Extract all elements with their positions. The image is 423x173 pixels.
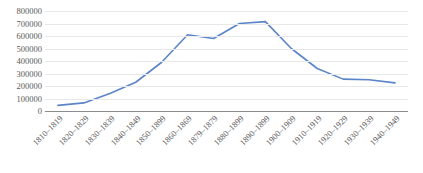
y-axis-tick-label: 300000 [17, 69, 43, 78]
y-axis-tick-label: 400000 [17, 57, 43, 66]
plot-area [45, 11, 408, 111]
line-chart: 8000007000006000005000004000003000002000… [0, 0, 423, 173]
gridline [45, 36, 408, 37]
y-axis-tick-label: 800000 [17, 7, 43, 16]
x-axis: 1810–18191820–18291830–18391840–18491850… [45, 112, 408, 173]
gridline [45, 11, 408, 12]
gridline [45, 24, 408, 25]
gridline [45, 99, 408, 100]
series-polyline [58, 22, 395, 106]
y-axis-tick-label: 700000 [17, 19, 43, 28]
gridline [45, 49, 408, 50]
gridline [45, 61, 408, 62]
y-axis-tick-label: 500000 [17, 44, 43, 53]
y-axis-tick-label: 600000 [17, 32, 43, 41]
y-axis-tick-label: 200000 [17, 82, 43, 91]
y-axis: 8000007000006000005000004000003000002000… [0, 0, 42, 173]
y-axis-tick-label: 0 [38, 107, 42, 116]
gridline [45, 86, 408, 87]
gridline [45, 74, 408, 75]
y-axis-tick-label: 100000 [17, 94, 43, 103]
